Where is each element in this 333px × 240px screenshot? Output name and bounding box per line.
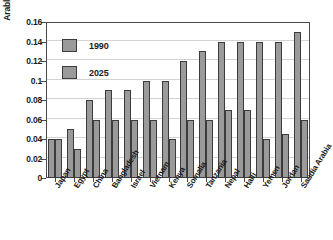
bar: [143, 81, 150, 179]
bar-group: [256, 22, 270, 178]
legend-label: 1990: [89, 41, 109, 51]
y-axis-tick-label: 0.08: [2, 96, 42, 104]
bar-group: [199, 22, 213, 178]
bar: [225, 110, 232, 178]
bar: [86, 100, 93, 178]
legend-label: 2025: [89, 68, 109, 78]
y-axis-tick-label: 0.04: [2, 135, 42, 143]
bar: [150, 120, 157, 179]
bar: [180, 61, 187, 178]
y-axis-tick-label: 0.02: [2, 155, 42, 163]
bar-group: [143, 22, 157, 178]
bar-group: [218, 22, 232, 178]
bar: [256, 42, 263, 179]
legend-swatch: [62, 39, 77, 52]
bar-group: [180, 22, 194, 178]
bars-layer: [46, 22, 310, 178]
y-axis-tick-label: 0.12: [2, 57, 42, 65]
bar: [105, 90, 112, 178]
bar: [112, 120, 119, 179]
bar: [48, 139, 55, 178]
bar: [237, 42, 244, 179]
y-axis-tick-label: 0.14: [2, 38, 42, 46]
y-axis-tick-label: 0.1: [2, 77, 42, 85]
bar-group: [275, 22, 289, 178]
bar: [275, 42, 282, 179]
y-axis-tick-label: 0: [2, 174, 42, 182]
bar-group: [237, 22, 251, 178]
bar: [206, 120, 213, 179]
bar: [294, 32, 301, 178]
bar-group: [48, 22, 62, 178]
legend-swatch: [62, 66, 77, 79]
bar: [301, 120, 308, 179]
y-axis-tick-label: 0.16: [2, 18, 42, 26]
bar-group: [162, 22, 176, 178]
bar: [93, 120, 100, 179]
bar-group: [294, 22, 308, 178]
y-axis-tick-label: 0.06: [2, 116, 42, 124]
bar: [199, 51, 206, 178]
bar: [244, 110, 251, 178]
